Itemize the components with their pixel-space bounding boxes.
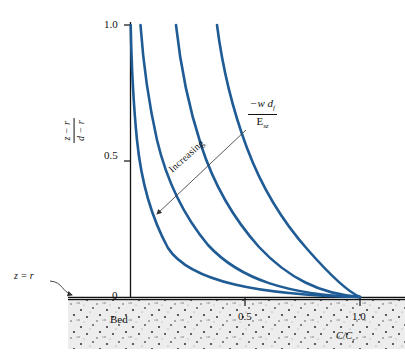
bed-label: Bed <box>110 313 128 325</box>
y-axis-label: z − r d − r <box>62 118 88 143</box>
datum-label: z = r <box>14 270 34 281</box>
x-tick-label-10: 1.0 <box>352 310 366 322</box>
rouse-number-annotation: −w df Esz <box>248 98 277 130</box>
figure-canvas: z − r d − r 1.0 0.5 0 0.5 1.0 −w df Esz … <box>0 0 405 356</box>
rouse-numerator-subscript: f <box>273 104 275 112</box>
y-tick-label-0: 0 <box>112 289 118 301</box>
x-axis-label-subscript: r <box>352 336 355 344</box>
profile-curve-3 <box>176 25 360 297</box>
rouse-denominator-subscript: sz <box>263 122 268 130</box>
y-tick-label-1: 1.0 <box>104 18 118 30</box>
rouse-denominator: Esz <box>248 116 277 131</box>
rouse-numerator: −w df <box>248 98 277 113</box>
x-tick-label-05: 0.5 <box>238 310 252 322</box>
plot-svg <box>0 0 405 356</box>
profile-curve-4 <box>217 25 360 297</box>
profile-curve-1 <box>131 25 360 297</box>
datum-pointer-arrow <box>50 281 72 295</box>
y-tick-label-05: 0.5 <box>104 149 118 161</box>
x-axis-label: C/Cr <box>336 330 355 344</box>
y-axis-label-denominator: d − r <box>75 118 86 143</box>
y-axis-label-numerator: z − r <box>62 118 73 143</box>
x-axis-label-main: C/C <box>336 330 352 341</box>
